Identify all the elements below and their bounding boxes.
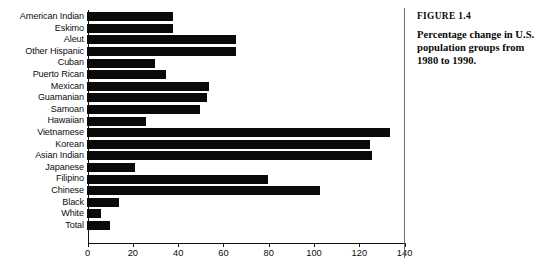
bar-fill: [87, 151, 372, 160]
x-axis-tick: [133, 243, 134, 247]
bar-category-label: Other Hispanic: [0, 47, 87, 56]
bar-category-label: Cuban: [0, 58, 87, 67]
bar-track: [87, 104, 404, 116]
x-axis-tick-label: 0: [85, 248, 90, 258]
bar-category-label: Korean: [0, 140, 87, 149]
bar-track: [87, 115, 404, 127]
bar-row: Total: [0, 220, 405, 232]
bar-track: [87, 69, 404, 81]
bar-category-label: Chinese: [0, 186, 87, 195]
bar-category-label: Samoan: [0, 105, 87, 114]
bar-row: Asian Indian: [0, 150, 405, 162]
bar-row: Other Hispanic: [0, 46, 405, 58]
bar-category-label: Filipino: [0, 174, 87, 183]
bar-fill: [87, 105, 200, 114]
bar-row: Puerto Rican: [0, 69, 405, 81]
x-axis-tick-label: 100: [306, 248, 322, 258]
x-axis-tick-label: 40: [173, 248, 183, 258]
panel-divider: [404, 8, 405, 258]
bar-track: [87, 46, 404, 58]
caption-panel: FIGURE 1.4 Percentage change in U.S. pop…: [417, 11, 547, 68]
bar-track: [87, 139, 404, 151]
bar-fill: [87, 198, 119, 207]
bar-track: [87, 208, 404, 220]
bar-row: American Indian: [0, 11, 405, 23]
x-axis-tick-label: 20: [128, 248, 138, 258]
bar-track: [87, 127, 404, 139]
bar-row: Chinese: [0, 185, 405, 197]
bar-row: Aleut: [0, 34, 405, 46]
x-axis-tick-label: 120: [352, 248, 368, 258]
x-axis-tick: [269, 243, 270, 247]
bar-category-label: White: [0, 209, 87, 218]
bar-row: Japanese: [0, 162, 405, 174]
figure-number-label: FIGURE 1.4: [417, 11, 547, 21]
bar-fill: [87, 93, 207, 102]
bar-fill: [87, 186, 320, 195]
bar-fill: [87, 24, 173, 33]
bar-row: Guamanian: [0, 92, 405, 104]
bar-fill: [87, 47, 236, 56]
bar-row: Filipino: [0, 173, 405, 185]
bar-track: [87, 11, 404, 23]
bar-category-label: Aleut: [0, 35, 87, 44]
x-axis-tick: [88, 243, 89, 247]
bar-row: Mexican: [0, 81, 405, 93]
bar-row: White: [0, 208, 405, 220]
bar-category-label: Hawaiian: [0, 116, 87, 125]
bar-category-label: Japanese: [0, 163, 87, 172]
bar-category-label: Mexican: [0, 82, 87, 91]
figure-container: American IndianEskimoAleutOther Hispanic…: [0, 0, 555, 278]
x-axis-tick: [359, 243, 360, 247]
bar-category-label: Black: [0, 198, 87, 207]
x-axis-line: [88, 243, 405, 244]
bar-row: Black: [0, 197, 405, 209]
bar-chart-plot-area: American IndianEskimoAleutOther Hispanic…: [0, 11, 405, 231]
bar-category-label: Total: [0, 221, 87, 230]
bar-fill: [87, 59, 155, 68]
bar-row: Korean: [0, 139, 405, 151]
bar-fill: [87, 12, 173, 21]
bar-fill: [87, 117, 146, 126]
bar-category-label: Guamanian: [0, 93, 87, 102]
bar-row: Eskimo: [0, 23, 405, 35]
bar-fill: [87, 221, 110, 230]
bar-fill: [87, 128, 390, 137]
bar-row: Samoan: [0, 104, 405, 116]
bar-fill: [87, 175, 268, 184]
bar-track: [87, 185, 404, 197]
x-axis-tick-label: 80: [264, 248, 274, 258]
bar-track: [87, 220, 404, 232]
bar-fill: [87, 163, 135, 172]
bar-category-label: American Indian: [0, 12, 87, 21]
bar-track: [87, 162, 404, 174]
bar-row: Hawaiian: [0, 115, 405, 127]
bar-track: [87, 81, 404, 93]
bar-category-label: Eskimo: [0, 24, 87, 33]
bar-row: Cuban: [0, 57, 405, 69]
bar-row: Vietnamese: [0, 127, 405, 139]
bar-track: [87, 23, 404, 35]
bar-fill: [87, 35, 236, 44]
bar-track: [87, 150, 404, 162]
bar-track: [87, 197, 404, 209]
x-axis-tick: [223, 243, 224, 247]
bar-fill: [87, 209, 101, 218]
chart-panel: American IndianEskimoAleutOther Hispanic…: [0, 0, 405, 278]
bar-fill: [87, 70, 166, 79]
bar-category-label: Vietnamese: [0, 128, 87, 137]
bar-track: [87, 57, 404, 69]
bar-fill: [87, 82, 209, 91]
x-axis-tick: [178, 243, 179, 247]
bar-category-label: Puerto Rican: [0, 70, 87, 79]
bar-track: [87, 173, 404, 185]
bar-track: [87, 92, 404, 104]
bar-track: [87, 34, 404, 46]
x-axis-tick-label: 60: [218, 248, 228, 258]
bar-category-label: Asian Indian: [0, 151, 87, 160]
bar-fill: [87, 140, 370, 149]
figure-caption-text: Percentage change in U.S. population gro…: [417, 28, 547, 68]
x-axis-tick: [314, 243, 315, 247]
